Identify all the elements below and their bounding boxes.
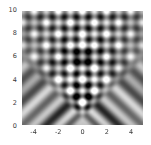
x-tick-label-zero: 0 [80, 129, 84, 136]
x-tick-label-minus2: -2 [55, 129, 61, 136]
x-tick-label-4: 4 [129, 129, 133, 136]
figure-container: 10 8 6 4 2 0 -4 -2 0 2 4 [0, 0, 151, 145]
x-tick-label-2: 2 [105, 129, 109, 136]
x-tick-label-minus4: -4 [30, 129, 36, 136]
x-axis-tick-labels: -4 -2 0 2 4 [0, 0, 151, 145]
